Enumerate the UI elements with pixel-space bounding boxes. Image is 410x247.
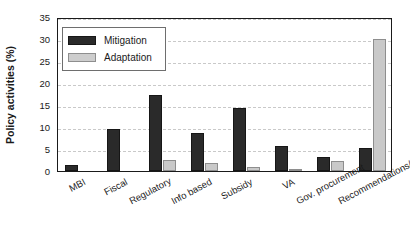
y-axis-tick-label: 25 (22, 57, 50, 67)
x-axis-tick-label: Gov. procurement (294, 176, 338, 206)
y-axis-tick-label: 35 (22, 13, 50, 23)
bar-chart: Policy activities (%) 05101520253035 Mit… (0, 0, 410, 247)
x-axis-tick-label: Regulatory (127, 176, 171, 206)
y-axis-tick-labels: 05101520253035 (22, 18, 54, 172)
bar-adaptation-6 (331, 161, 344, 171)
bar-mitigation-3 (191, 133, 204, 171)
y-axis-tick-label: 20 (22, 79, 50, 89)
bar-mitigation-6 (317, 157, 330, 171)
bar-mitigation-2 (149, 95, 162, 171)
legend-label-adaptation: Adaptation (104, 52, 152, 63)
bar-mitigation-4 (233, 108, 246, 171)
y-axis-tick-label: 10 (22, 123, 50, 133)
y-axis-tick-label: 30 (22, 35, 50, 45)
bar-adaptation-4 (247, 167, 260, 171)
legend-swatch-adaptation-icon (68, 53, 96, 62)
bar-mitigation-1 (107, 129, 120, 171)
legend-item-mitigation: Mitigation (68, 32, 160, 49)
y-axis-title-text: Policy activities (%) (4, 46, 16, 144)
bar-adaptation-2 (163, 160, 176, 171)
x-axis-tick-label: Subsidy (211, 176, 255, 206)
bar-adaptation-7 (373, 39, 386, 171)
x-axis-tick-label: MBI (43, 176, 87, 206)
y-axis-title: Policy activities (%) (2, 18, 18, 172)
bar-adaptation-5 (289, 169, 302, 171)
bar-adaptation-3 (205, 163, 218, 171)
legend-item-adaptation: Adaptation (68, 49, 160, 66)
legend-label-mitigation: Mitigation (104, 35, 147, 46)
legend: Mitigation Adaptation (62, 27, 166, 71)
y-axis-tick-label: 5 (22, 145, 50, 155)
y-axis-tick-label: 0 (22, 167, 50, 177)
bar-mitigation-5 (275, 146, 288, 171)
legend-swatch-mitigation-icon (68, 36, 96, 45)
x-axis-tick-label: VA (252, 176, 296, 206)
x-axis-tick-label: Fiscal (85, 176, 129, 206)
bar-mitigation-0 (65, 165, 78, 171)
x-axis-tick-labels: MBIFiscalRegulatoryInfo basedSubsidyVAGo… (57, 172, 392, 247)
y-axis-tick-label: 15 (22, 101, 50, 111)
x-axis-tick-label: Info based (169, 176, 213, 206)
